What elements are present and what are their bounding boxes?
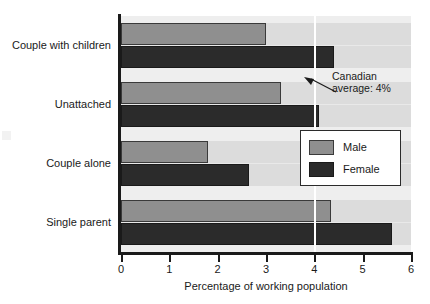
bar-male-3 [121,200,331,222]
bar-male-2 [121,141,208,163]
chart-page: 0123456 Couple with childrenUnattachedCo… [0,0,430,304]
x-axis-tick [314,255,316,262]
x-axis-tick-label: 4 [299,263,329,275]
scan-artifact [2,131,11,140]
annotation-line-2: average: 4% [332,82,391,94]
bar-female-3 [121,223,392,245]
x-axis-tick [411,255,413,262]
x-axis-tick [266,255,268,262]
background-band [121,245,411,252]
x-axis-tick-label: 6 [396,263,426,275]
category-label-3: Single parent [0,216,111,228]
x-axis-tick-label: 0 [106,263,136,275]
bar-female-1 [121,105,319,127]
background-band [121,193,411,200]
x-axis-title: Percentage of working population [121,280,411,292]
category-label-0: Couple with children [0,39,111,51]
x-axis-tick-label: 2 [203,263,233,275]
canadian-average-annotation: Canadian average: 4% [332,70,391,94]
bar-female-0 [121,46,334,68]
legend-label-male: Male [343,141,367,153]
x-axis-tick [218,255,220,262]
category-label-2: Couple alone [0,157,111,169]
x-axis-tick [363,255,365,262]
y-axis-line [118,14,121,254]
background-band [121,186,411,193]
x-axis-tick [169,255,171,262]
x-axis-tick [121,255,123,262]
bar-male-0 [121,23,266,45]
background-band [121,16,411,23]
category-label-1: Unattached [0,98,111,110]
legend-label-female: Female [343,163,380,175]
x-axis-tick-label: 3 [251,263,281,275]
bar-female-2 [121,164,249,186]
chart-legend: Male Female [300,130,401,186]
legend-swatch-female-icon [309,162,334,177]
x-axis-tick-label: 5 [348,263,378,275]
annotation-line-1: Canadian [332,70,391,82]
bar-male-1 [121,82,281,104]
x-axis-tick-label: 1 [154,263,184,275]
legend-swatch-male-icon [309,140,334,155]
